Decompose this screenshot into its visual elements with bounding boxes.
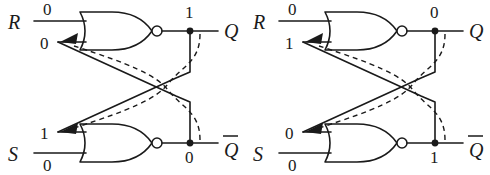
s-terminal-label: S bbox=[8, 143, 18, 165]
q-value-label: 1 bbox=[185, 3, 194, 22]
top-feedback-value-label: 1 bbox=[285, 34, 294, 53]
top-nor-inversion-bubble bbox=[152, 26, 162, 36]
latch-figure: R 0 0 S 0 1 1 Q 0 Q R 0 bbox=[0, 0, 490, 175]
top-nor-inversion-bubble bbox=[397, 26, 407, 36]
bottom-feedback-value-label: 1 bbox=[40, 124, 49, 143]
r-value-label: 0 bbox=[288, 0, 297, 19]
sr-latch-left: R 0 0 S 0 1 1 Q 0 Q bbox=[0, 0, 245, 175]
q-terminal-label: Q bbox=[469, 20, 484, 42]
bottom-nor-gate-body bbox=[325, 124, 397, 162]
qbar-terminal-label: Q bbox=[469, 139, 484, 161]
top-nor-gate-body bbox=[80, 12, 152, 50]
qbar-terminal-label: Q bbox=[224, 139, 239, 161]
bottom-nor-inversion-bubble bbox=[152, 138, 162, 148]
top-nor-gate-body bbox=[325, 12, 397, 50]
bottom-nor-gate-body bbox=[80, 124, 152, 162]
r-value-label: 0 bbox=[43, 0, 52, 19]
sr-latch-right: R 0 1 S 0 0 0 Q 1 Q bbox=[245, 0, 490, 175]
s-value-label: 0 bbox=[43, 156, 52, 175]
r-terminal-label: R bbox=[7, 11, 20, 33]
q-value-label: 0 bbox=[430, 3, 439, 22]
bottom-feedback-value-label: 0 bbox=[285, 124, 294, 143]
s-terminal-label: S bbox=[253, 143, 263, 165]
r-terminal-label: R bbox=[252, 11, 265, 33]
q-terminal-label: Q bbox=[224, 20, 239, 42]
s-value-label: 0 bbox=[288, 156, 297, 175]
top-feedback-value-label: 0 bbox=[40, 34, 49, 53]
qbar-value-label: 0 bbox=[185, 148, 194, 167]
qbar-value-label: 1 bbox=[430, 148, 439, 167]
bottom-nor-inversion-bubble bbox=[397, 138, 407, 148]
